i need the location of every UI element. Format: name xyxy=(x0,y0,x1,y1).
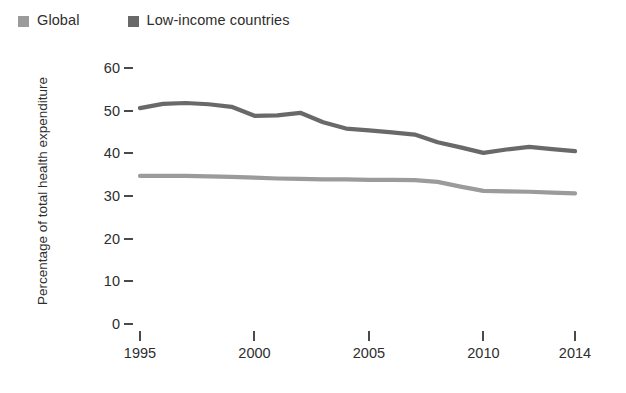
y-tick-label: 40 xyxy=(78,145,120,161)
x-tick-label-2010: 2010 xyxy=(467,345,499,361)
y-tick-mark xyxy=(124,195,133,197)
y-tick-mark xyxy=(124,67,133,69)
x-tick-label-2005: 2005 xyxy=(353,345,385,361)
y-tick-label: 30 xyxy=(78,188,120,204)
y-tick-mark xyxy=(124,152,133,154)
series-line-global xyxy=(140,176,575,193)
x-tick-label-1995: 1995 xyxy=(124,345,156,361)
y-tick-label: 60 xyxy=(78,60,120,76)
x-tick-mark xyxy=(574,331,576,341)
y-tick-mark xyxy=(124,280,133,282)
chart-container: Global Low-income countries Percentage o… xyxy=(0,0,626,393)
y-tick-mark xyxy=(124,323,133,325)
y-tick-label: 0 xyxy=(78,316,120,332)
y-tick-label: 20 xyxy=(78,231,120,247)
x-tick-mark xyxy=(482,331,484,341)
x-tick-label-2014: 2014 xyxy=(559,345,591,361)
x-tick-mark xyxy=(368,331,370,341)
series-line-low-income-countries xyxy=(140,103,575,153)
plot-area: 010203040506019952000200520102014 xyxy=(0,0,626,393)
x-tick-mark xyxy=(253,331,255,341)
y-tick-mark xyxy=(124,110,133,112)
x-tick-label-2000: 2000 xyxy=(238,345,270,361)
x-tick-mark xyxy=(139,331,141,341)
y-tick-label: 10 xyxy=(78,273,120,289)
y-tick-mark xyxy=(124,238,133,240)
y-tick-label: 50 xyxy=(78,103,120,119)
